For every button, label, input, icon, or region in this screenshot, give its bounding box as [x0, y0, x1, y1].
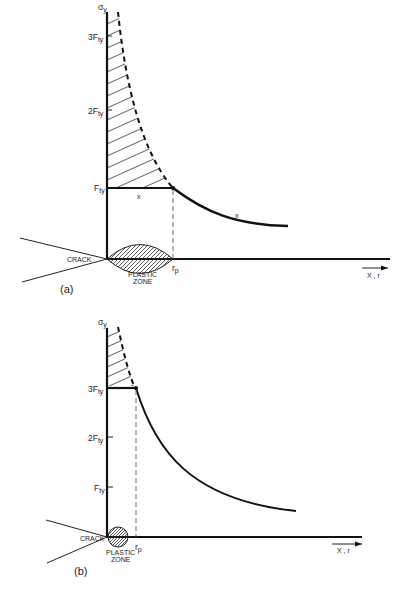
y-axis-label: σy: [98, 2, 107, 14]
hatch-line: [107, 149, 175, 180]
rp-label: rp: [135, 542, 142, 554]
actual-stress-curve: [173, 188, 288, 226]
crack-upper-face: [20, 238, 107, 259]
panel-a: σy 3Fty 2Fty Fty x x CRACK PLASTIC ZONE …: [20, 0, 390, 295]
hatch-line: [107, 89, 175, 120]
actual-stress-curve: [136, 388, 296, 511]
panel-b: σy 3Fty 2Fty Fty CRACK PLASTIC ZONE rp X…: [46, 312, 362, 577]
hatch-line: [107, 77, 175, 108]
tick-label-2fty: 2Fty: [88, 433, 104, 445]
x-axis-label: X , r: [367, 272, 381, 279]
yield-point: [134, 386, 138, 390]
hatch-line: [107, 322, 140, 337]
panel-label-a: (a): [60, 283, 73, 295]
tick-label-fty: Fty: [94, 183, 105, 195]
hatch-line: [107, 65, 175, 96]
hatch-line: [107, 41, 175, 72]
elastic-stress-curve: [118, 12, 173, 188]
hatch-line: [107, 0, 175, 24]
hatch-line: [107, 53, 175, 84]
rp-label: rp: [172, 263, 179, 275]
panel-label-b: (b): [74, 565, 87, 577]
hatch-line: [107, 5, 175, 36]
plastic-label: PLASTIC: [106, 549, 135, 556]
y-axis-label: σy: [98, 317, 107, 329]
crack-label: CRACK: [67, 256, 92, 263]
x-marker-2: x: [235, 212, 239, 219]
tick-label-3fty: 3Fty: [88, 32, 104, 44]
elastic-stress-curve: [118, 327, 134, 386]
plastic-label: PLASTIC: [128, 271, 157, 278]
zone-label: ZONE: [111, 556, 131, 563]
hatch-line: [107, 17, 175, 48]
tick-label-fty: Fty: [94, 483, 105, 495]
tick-label-3fty: 3Fty: [88, 384, 104, 396]
crack-lower-face: [22, 259, 107, 282]
stress-distribution-figure: σy 3Fty 2Fty Fty x x CRACK PLASTIC ZONE …: [0, 0, 409, 590]
arrowhead-icon: [355, 542, 362, 547]
tick-label-2fty: 2Fty: [88, 106, 104, 118]
x-axis-label: X , r: [337, 547, 351, 554]
zone-label: ZONE: [133, 278, 153, 285]
hatch-line: [107, 29, 175, 60]
hatch-line: [107, 185, 175, 216]
hatch-line: [107, 312, 140, 327]
elastic-excess-hatch: [107, 0, 175, 216]
arrowhead-icon: [381, 266, 388, 271]
yield-point: [171, 186, 175, 190]
hatch-line: [107, 137, 175, 168]
crack-label: CRACK: [80, 535, 105, 542]
x-marker-1: x: [137, 193, 141, 200]
hatch-line: [107, 0, 175, 12]
